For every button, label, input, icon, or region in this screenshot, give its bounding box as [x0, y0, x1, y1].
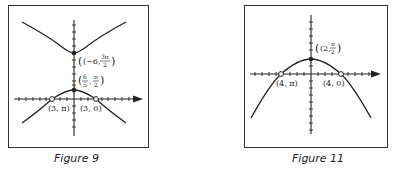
svg-text:2: 2 [103, 61, 107, 68]
label-4-0: (4, 0) [323, 79, 345, 88]
point-open [279, 72, 284, 77]
svg-text:): ) [337, 42, 341, 55]
figure-11: ( (2, π 2 ) (4, π) (4, 0) Figure 11 [240, 0, 397, 171]
point-filled [72, 88, 77, 93]
svg-text:2: 2 [94, 81, 98, 88]
svg-text:): ) [111, 55, 115, 68]
label-4-pi: (4, π) [276, 79, 298, 88]
svg-text:(: ( [78, 55, 82, 68]
point-open [94, 97, 99, 102]
svg-text:π: π [94, 73, 98, 80]
svg-text:3π: 3π [101, 53, 109, 60]
point-filled [72, 51, 77, 56]
svg-text:π: π [331, 40, 335, 47]
arrow-icon [133, 96, 143, 103]
figure-9: ( (−6, 3π 2 ) ( 6 5 , π 2 ) (3, π) (3, 0… [0, 0, 160, 171]
label-6-5-pi-over-2: ( 6 5 , π 2 ) [78, 73, 104, 88]
svg-text:): ) [100, 74, 104, 87]
svg-text:6: 6 [83, 73, 87, 80]
label-neg6-3pi-over-2: ( (−6, 3π 2 ) [78, 53, 115, 68]
svg-text:5: 5 [83, 81, 87, 88]
svg-text:(: ( [315, 42, 319, 55]
figure-11-graph: ( (2, π 2 ) (4, π) (4, 0) [240, 0, 397, 171]
point-open [339, 72, 344, 77]
svg-text:(2,: (2, [320, 44, 331, 53]
svg-text:2: 2 [331, 48, 335, 55]
arrow-icon [371, 71, 381, 78]
svg-text:(−6,: (−6, [83, 57, 100, 66]
figure-9-caption: Figure 9 [54, 152, 99, 165]
label-2-pi-over-2: ( (2, π 2 ) [315, 40, 341, 55]
label-3-pi: (3, π) [48, 104, 70, 113]
figure-9-graph: ( (−6, 3π 2 ) ( 6 5 , π 2 ) (3, π) (3, 0… [0, 0, 160, 171]
label-3-0: (3, 0) [80, 104, 102, 113]
svg-text:,: , [89, 77, 92, 86]
figure-11-caption: Figure 11 [292, 152, 344, 165]
svg-text:(: ( [78, 74, 82, 87]
point-filled [309, 57, 314, 62]
point-open [50, 97, 55, 102]
